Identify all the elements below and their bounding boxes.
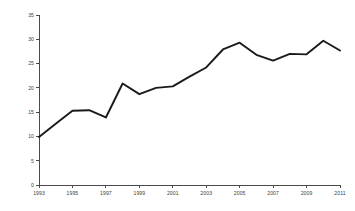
x-tick-label: 2005: [234, 190, 246, 196]
chart-screenshot: 05101520253035 1993199519971999200120032…: [0, 0, 355, 211]
y-tick-label: 30: [28, 36, 34, 42]
data-line-series-1: [39, 41, 340, 137]
x-axis-ticks: 1993199519971999200120032005200720092011: [33, 185, 346, 196]
x-tick-label: 1995: [67, 190, 79, 196]
x-tick-label: 1997: [100, 190, 112, 196]
x-tick-label: 2009: [301, 190, 313, 196]
chart-axes: [39, 15, 340, 185]
y-tick-label: 35: [28, 12, 34, 18]
y-tick-label: 25: [28, 60, 34, 66]
x-tick-label: 1999: [133, 190, 145, 196]
y-tick-label: 5: [31, 158, 34, 164]
y-tick-label: 15: [28, 109, 34, 115]
x-tick-label: 2011: [334, 190, 345, 196]
y-tick-label: 10: [28, 133, 34, 139]
x-tick-label: 1993: [33, 190, 45, 196]
x-tick-label: 2003: [200, 190, 212, 196]
line-chart: 05101520253035 1993199519971999200120032…: [0, 0, 355, 211]
x-tick-label: 2007: [267, 190, 279, 196]
y-tick-label: 0: [31, 182, 34, 188]
y-tick-label: 20: [28, 85, 34, 91]
x-tick-label: 2001: [167, 190, 179, 196]
chart-series-group: [39, 41, 340, 137]
y-axis-ticks: 05101520253035: [28, 12, 39, 188]
